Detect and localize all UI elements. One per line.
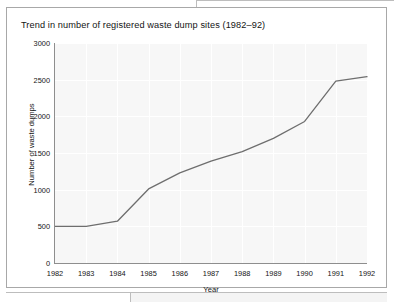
y-axis-tick-label: 2000 (10, 112, 50, 121)
x-axis-tick-label: 1992 (347, 269, 387, 278)
y-axis-tick-label: 1500 (10, 149, 50, 158)
chart-title: Trend in number of registered waste dump… (21, 20, 265, 30)
y-axis-tick-label: 0 (10, 259, 50, 268)
x-axis-tick-labels: 1982198319841985198619871988198919901991… (55, 269, 367, 281)
plot-area (55, 43, 367, 263)
y-axis-tick-labels: 050010001500200025003000 (7, 43, 50, 263)
gridline-vertical (367, 43, 368, 263)
x-axis-line (54, 263, 367, 264)
figure-frame: Trend in number of registered waste dump… (6, 7, 387, 288)
y-axis-tick-label: 3000 (10, 39, 50, 48)
y-axis-line (54, 43, 55, 264)
page-canvas: Trend in number of registered waste dump… (0, 0, 394, 302)
series-line (55, 77, 367, 227)
page-bottom-panel (131, 293, 387, 302)
y-axis-tick-label: 2500 (10, 75, 50, 84)
page-top-rule (196, 0, 394, 1)
line-series-registered-waste-dump-sites (55, 43, 367, 263)
y-axis-tick-label: 1000 (10, 185, 50, 194)
y-axis-tick-label: 500 (10, 222, 50, 231)
